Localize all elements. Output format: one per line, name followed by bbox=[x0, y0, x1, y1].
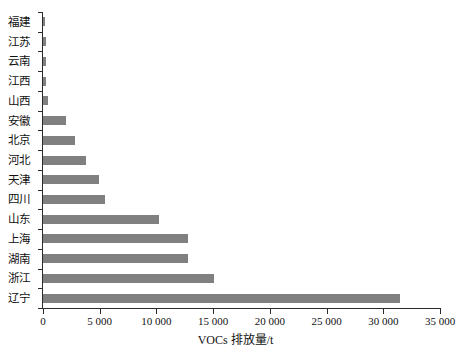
x-axis-tick-label: 10 000 bbox=[141, 315, 171, 327]
y-axis-label: 天津 bbox=[0, 174, 38, 186]
bar bbox=[43, 215, 159, 224]
y-axis-tick bbox=[38, 150, 43, 151]
y-axis-tick bbox=[38, 91, 43, 92]
y-axis-tick bbox=[38, 229, 43, 230]
y-axis-label: 上海 bbox=[0, 233, 38, 245]
bar bbox=[43, 17, 45, 26]
x-axis-tick-label: 0 bbox=[40, 315, 46, 327]
bar bbox=[43, 156, 86, 165]
y-axis-label: 四川 bbox=[0, 193, 38, 205]
bar bbox=[43, 254, 188, 263]
bar bbox=[43, 294, 400, 303]
bar bbox=[43, 274, 214, 283]
x-axis-tick-label: 30 000 bbox=[368, 315, 398, 327]
x-axis-tick bbox=[440, 309, 441, 314]
bar bbox=[43, 77, 46, 86]
y-axis-label: 北京 bbox=[0, 134, 38, 146]
y-axis-label: 浙江 bbox=[0, 272, 38, 284]
y-axis-tick bbox=[38, 71, 43, 72]
y-axis-tick bbox=[38, 249, 43, 250]
x-axis-tick bbox=[100, 309, 101, 314]
y-axis-label: 辽宁 bbox=[0, 292, 38, 304]
y-axis-label: 江苏 bbox=[0, 36, 38, 48]
y-axis-label: 山东 bbox=[0, 213, 38, 225]
x-axis-tick bbox=[327, 309, 328, 314]
x-axis-tick-label: 15 000 bbox=[198, 315, 228, 327]
x-axis-title: VOCs 排放量/t bbox=[0, 333, 471, 347]
x-axis-tick bbox=[270, 309, 271, 314]
y-axis-tick bbox=[38, 51, 43, 52]
y-axis-tick bbox=[38, 130, 43, 131]
bar bbox=[43, 57, 46, 66]
y-axis-label: 湖南 bbox=[0, 253, 38, 265]
y-axis-tick bbox=[38, 32, 43, 33]
y-axis-tick bbox=[38, 209, 43, 210]
y-axis-tick bbox=[38, 269, 43, 270]
bar bbox=[43, 96, 48, 105]
x-axis-tick bbox=[383, 309, 384, 314]
bar bbox=[43, 116, 66, 125]
x-axis-tick bbox=[156, 309, 157, 314]
bar bbox=[43, 37, 46, 46]
x-axis-tick-label: 20 000 bbox=[255, 315, 285, 327]
y-axis-label: 云南 bbox=[0, 55, 38, 67]
x-axis-tick-label: 35 000 bbox=[425, 315, 455, 327]
bar-chart: 福建江苏云南江西山西安徽北京河北天津四川山东上海湖南浙江辽宁 05 00010 … bbox=[0, 0, 471, 354]
x-axis-tick-label: 5 000 bbox=[87, 315, 112, 327]
plot-area bbox=[43, 12, 440, 308]
y-axis-label: 江西 bbox=[0, 75, 38, 87]
x-axis-tick bbox=[213, 309, 214, 314]
y-axis-label: 安徽 bbox=[0, 115, 38, 127]
bar bbox=[43, 195, 105, 204]
x-axis-tick-label: 25 000 bbox=[311, 315, 341, 327]
y-axis-label: 山西 bbox=[0, 95, 38, 107]
y-axis-label: 河北 bbox=[0, 154, 38, 166]
bar bbox=[43, 136, 75, 145]
x-axis-tick bbox=[43, 309, 44, 314]
y-axis-label: 福建 bbox=[0, 16, 38, 28]
y-axis-tick bbox=[38, 12, 43, 13]
bar bbox=[43, 234, 188, 243]
y-axis-tick bbox=[38, 288, 43, 289]
y-axis-tick bbox=[38, 111, 43, 112]
x-axis-line bbox=[42, 308, 441, 309]
bar bbox=[43, 175, 99, 184]
y-axis-tick bbox=[38, 190, 43, 191]
y-axis-tick bbox=[38, 170, 43, 171]
